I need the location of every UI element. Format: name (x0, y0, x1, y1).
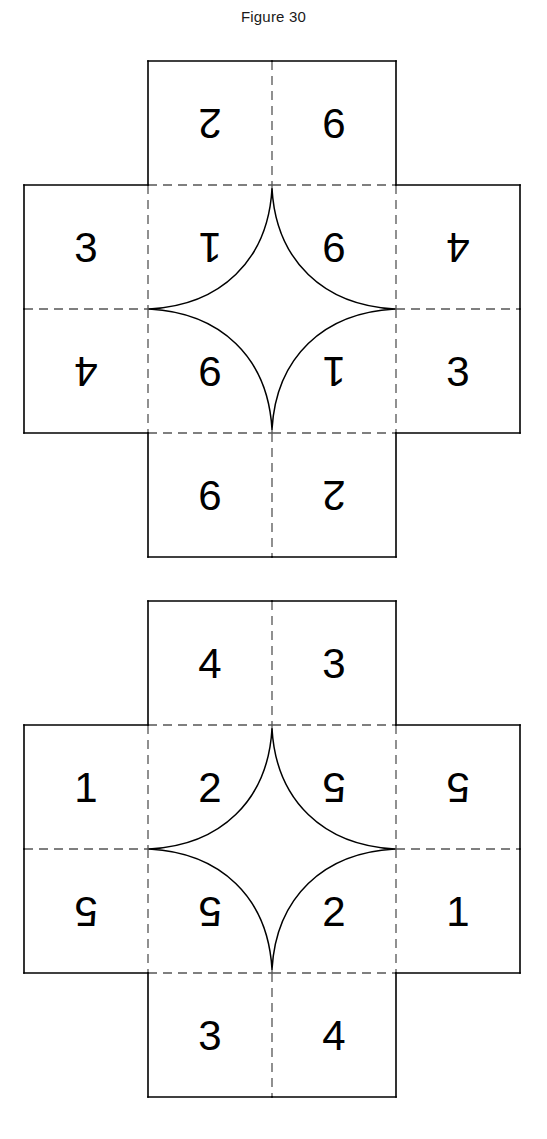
lower-cross-net-svg: 431255552134 (0, 595, 544, 1103)
cell-digit: 4 (322, 1012, 345, 1059)
cell-digit: 6 (322, 224, 345, 271)
cell-digit: 4 (198, 640, 221, 687)
cell-digit: 1 (322, 348, 345, 395)
cell-digit: 4 (74, 348, 97, 395)
cell-digit: 3 (74, 224, 97, 271)
lower-cross-net: 431255552134 (0, 595, 547, 1130)
cell-digit: 5 (446, 764, 469, 811)
center-pinch-star (149, 189, 395, 430)
cell-digit: 2 (198, 764, 221, 811)
page-title: Figure 30 (0, 8, 547, 25)
cell-digit: 5 (198, 888, 221, 935)
cell-digit: 2 (322, 888, 345, 935)
cell-digit: 6 (198, 348, 221, 395)
upper-cross-net: 263164461362 (0, 55, 547, 580)
cell-digit: 3 (198, 1012, 221, 1059)
cell-digit: 5 (322, 764, 345, 811)
cell-digit: 4 (446, 224, 469, 271)
cell-digit: 6 (198, 472, 221, 519)
cell-digit: 5 (74, 888, 97, 935)
cell-digit: 2 (322, 472, 345, 519)
cell-digit: 6 (322, 100, 345, 147)
cell-digit: 1 (198, 224, 221, 271)
center-pinch-star (149, 729, 395, 970)
cell-digit: 2 (198, 100, 221, 147)
cell-digit: 1 (74, 764, 97, 811)
cell-digit: 3 (446, 348, 469, 395)
cell-digit: 1 (446, 888, 469, 935)
cell-digit: 3 (322, 640, 345, 687)
upper-cross-net-svg: 263164461362 (0, 55, 544, 563)
